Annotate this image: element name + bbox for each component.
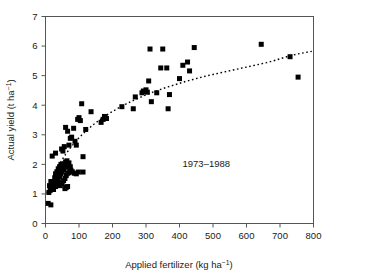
data-point <box>81 170 86 175</box>
x-tick-label: 600 <box>239 230 255 241</box>
data-point <box>160 47 165 52</box>
data-point <box>148 47 153 52</box>
data-point <box>145 90 150 95</box>
x-tick-label: 300 <box>138 230 154 241</box>
y-tick-label: 2 <box>32 159 37 170</box>
data-point <box>296 75 301 80</box>
data-point <box>71 126 76 131</box>
data-point <box>65 184 70 189</box>
plot-frame <box>46 17 314 224</box>
data-point <box>60 149 65 154</box>
data-point <box>58 162 63 167</box>
data-point <box>187 68 192 73</box>
axis-title-tail: ) <box>5 79 16 82</box>
data-point <box>167 92 172 97</box>
y-axis-ticks <box>42 17 46 224</box>
data-point <box>133 94 138 99</box>
y-tick-label: 3 <box>32 129 37 140</box>
data-point <box>83 127 88 132</box>
data-point <box>149 99 154 104</box>
y-tick-label: 0 <box>32 218 37 229</box>
data-point <box>78 118 83 123</box>
x-axis-ticks <box>46 224 314 228</box>
data-point <box>164 65 169 70</box>
y-axis-title: Actual yield (t ha−1) <box>5 79 16 160</box>
data-point <box>102 114 107 119</box>
scatter-plot: 0100200300400500600700800 01234567 1973–… <box>0 0 365 279</box>
data-point <box>81 154 86 159</box>
trend-curve <box>47 51 312 193</box>
data-point <box>146 78 151 83</box>
data-point <box>154 90 159 95</box>
data-point <box>62 144 67 149</box>
data-point <box>180 63 185 68</box>
data-point <box>185 60 190 65</box>
data-point <box>119 104 124 109</box>
data-point <box>158 65 163 70</box>
x-tick-label: 700 <box>272 230 288 241</box>
y-tick-label: 7 <box>32 11 37 22</box>
data-point <box>288 54 293 59</box>
data-point <box>192 45 197 50</box>
x-tick-label: 500 <box>205 230 221 241</box>
data-point <box>79 101 84 106</box>
scatter-markers <box>46 42 301 208</box>
data-point <box>48 202 53 207</box>
axis-title-base: Actual yield (t ha <box>5 90 16 161</box>
data-point <box>259 42 264 47</box>
data-point <box>131 106 136 111</box>
x-tick-label: 400 <box>172 230 188 241</box>
data-point <box>166 106 171 111</box>
x-tick-label: 0 <box>43 230 48 241</box>
annotation-year-range: 1973–1988 <box>183 158 231 169</box>
data-point <box>74 143 79 148</box>
y-tick-label: 4 <box>32 100 37 111</box>
axis-title-tail: ) <box>230 259 233 270</box>
axis-title-base: Applied fertilizer (kg ha <box>125 259 222 270</box>
y-axis-tick-labels: 01234567 <box>32 11 37 229</box>
data-point <box>53 151 58 156</box>
x-tick-label: 800 <box>306 230 322 241</box>
data-point <box>177 76 182 81</box>
y-tick-label: 1 <box>32 188 37 199</box>
y-tick-label: 6 <box>32 40 37 51</box>
data-point <box>89 109 94 114</box>
data-point <box>66 143 71 148</box>
chart-figure: 0100200300400500600700800 01234567 1973–… <box>0 0 365 279</box>
x-tick-label: 200 <box>105 230 121 241</box>
x-axis-tick-labels: 0100200300400500600700800 <box>43 230 322 241</box>
data-point <box>76 170 81 175</box>
x-axis-title: Applied fertilizer (kg ha−1) <box>125 259 233 270</box>
x-tick-label: 100 <box>71 230 87 241</box>
data-point <box>65 129 70 134</box>
y-tick-label: 5 <box>32 70 37 81</box>
